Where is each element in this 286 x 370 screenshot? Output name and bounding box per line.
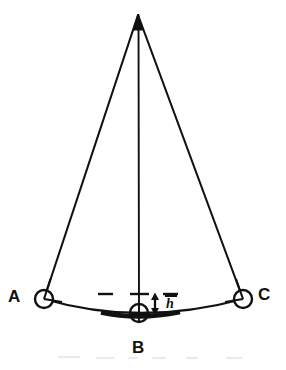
figure-canvas: A B C h	[0, 0, 286, 370]
scan-artifact	[226, 357, 242, 359]
right-leg-line	[138, 15, 243, 299]
scan-artifact	[186, 357, 198, 359]
node-label-b: B	[132, 339, 144, 356]
node-label-c: C	[258, 286, 270, 303]
node-label-a: A	[8, 288, 20, 305]
scan-artifact	[96, 357, 114, 359]
sag-height-label: h	[166, 297, 174, 311]
scan-artifact	[128, 357, 138, 359]
diagram-svg	[0, 0, 286, 370]
center-vertical-line	[139, 15, 140, 313]
scan-artifact	[152, 357, 166, 359]
left-leg-line	[44, 15, 138, 299]
scan-artifact	[58, 356, 80, 358]
